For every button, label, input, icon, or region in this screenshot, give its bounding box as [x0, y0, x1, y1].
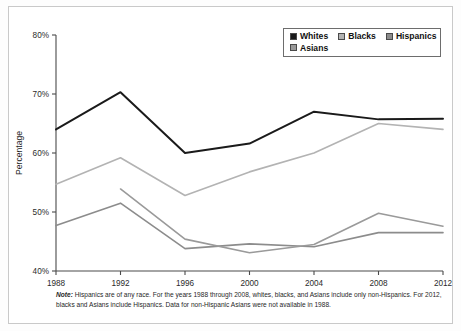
legend-label-whites: Whites	[300, 32, 328, 41]
y-tick-label: 60%	[33, 149, 49, 158]
legend-label-hispanics: Hispanics	[396, 32, 437, 41]
y-tick-label: 70%	[33, 90, 49, 99]
legend-label-asians: Asians	[300, 44, 328, 53]
legend-item-whites[interactable]: Whites	[290, 32, 328, 41]
legend-swatch-asians	[290, 44, 297, 51]
footnote-text: Hispanics are of any race. For the years…	[56, 291, 442, 308]
legend-label-blacks: Blacks	[348, 32, 376, 41]
x-tick-label: 1996	[176, 279, 195, 288]
y-tick-label: 50%	[33, 208, 49, 217]
legend-swatch-blacks	[338, 33, 345, 40]
legend-row-1: Whites Blacks Hispanics	[290, 32, 434, 41]
x-tick-label: 2008	[369, 279, 388, 288]
legend-swatch-whites	[290, 33, 297, 40]
legend-item-asians[interactable]: Asians	[290, 44, 328, 53]
footnote-note-word: Note:	[56, 291, 73, 298]
y-axis-title: Percentage	[14, 131, 24, 175]
x-tick-label: 1988	[47, 279, 66, 288]
series-line-whites	[56, 92, 443, 153]
figure-container: 40%50%60%70%80%1988199219962000200420082…	[0, 0, 461, 331]
legend-swatch-hispanics	[386, 33, 393, 40]
x-tick-label: 2004	[305, 279, 324, 288]
series-line-asians	[121, 189, 444, 253]
y-tick-label: 40%	[33, 267, 49, 276]
x-tick-label: 1992	[111, 279, 130, 288]
legend-item-blacks[interactable]: Blacks	[338, 32, 376, 41]
legend-item-hispanics[interactable]: Hispanics	[386, 32, 437, 41]
y-tick-label: 80%	[33, 31, 49, 40]
legend-row-2: Asians	[290, 44, 434, 53]
series-line-hispanics	[56, 203, 443, 248]
chart-footnote: Note: Hispanics are of any race. For the…	[56, 290, 446, 310]
chart-legend: Whites Blacks Hispanics Asians	[283, 28, 441, 57]
x-tick-label: 2012	[434, 279, 453, 288]
x-tick-label: 2000	[240, 279, 259, 288]
series-line-blacks	[56, 124, 443, 196]
